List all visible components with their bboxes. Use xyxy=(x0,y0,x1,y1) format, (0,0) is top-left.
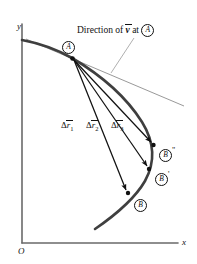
velocity-direction-caption: Direction of v at A xyxy=(77,24,154,37)
origin-label: O xyxy=(18,247,25,256)
vector-subscript-3: 3 xyxy=(120,125,123,132)
vector-subscript-1: 1 xyxy=(70,125,73,132)
r-vector-symbol-2: r xyxy=(92,121,96,130)
vector-label-dr2: Δr2 xyxy=(86,121,99,132)
point-label-B-double-prime: B" xyxy=(159,146,175,162)
point-label-B: B xyxy=(134,196,147,212)
point-b-double-prime-badge: B xyxy=(159,149,172,162)
velocity-vector-symbol: v xyxy=(126,26,130,36)
velocity-direction-tangent xyxy=(26,39,184,106)
point-dot-B xyxy=(126,191,130,195)
point-b-double-prime-mark: " xyxy=(172,146,175,155)
point-dot-A xyxy=(70,56,75,61)
point-b-badge: B xyxy=(134,199,147,212)
caption-prefix-text: Direction of xyxy=(77,25,126,35)
caption-middle-text: at xyxy=(130,25,142,35)
vector-label-dr3: Δr3 xyxy=(111,121,124,132)
point-a-badge: A xyxy=(62,41,75,54)
caption-point-a-badge: A xyxy=(141,24,154,37)
r-vector-symbol-1: r xyxy=(67,121,71,130)
point-dot-Bdoubleprime xyxy=(151,143,155,147)
particle-path xyxy=(22,40,152,229)
point-b-prime-badge: B xyxy=(155,173,168,186)
axes-group xyxy=(22,24,178,243)
x-axis-label: x xyxy=(182,238,186,247)
caption-leader-line xyxy=(111,38,134,73)
trajectory-figure: O y x Direction of v at A A B B' B" Δr1 … xyxy=(0,0,197,264)
point-label-A: A xyxy=(62,38,75,54)
point-label-B-prime: B' xyxy=(155,170,169,186)
vector-label-dr1: Δr1 xyxy=(61,121,74,132)
point-b-prime-mark-2: ' xyxy=(168,170,169,179)
vector-subscript-2: 2 xyxy=(95,125,98,132)
y-axis-label: y xyxy=(17,22,21,31)
r-vector-symbol-3: r xyxy=(117,121,121,130)
point-dot-Bprime xyxy=(147,167,151,171)
